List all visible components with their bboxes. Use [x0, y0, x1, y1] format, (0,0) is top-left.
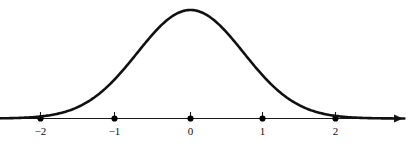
tick-label-zero: 0 [188, 126, 194, 137]
point-marker-neg1 [111, 115, 117, 121]
tick-label-neg2: −2 [35, 126, 47, 137]
bell-curve-figure: −2 −1 0 1 2 [0, 0, 410, 150]
tick-label-two: 2 [333, 126, 339, 137]
tick-label-neg1: −1 [109, 126, 121, 137]
point-marker-one [259, 115, 265, 121]
tick-label-one: 1 [260, 126, 266, 137]
point-marker-zero [187, 115, 193, 121]
plot-canvas [0, 0, 410, 150]
gaussian-bell-curve [0, 10, 404, 118]
